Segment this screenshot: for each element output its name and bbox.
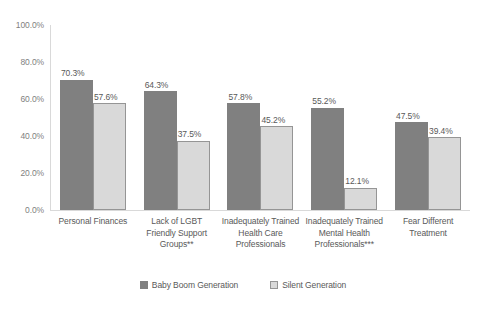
- bar-group: 64.3%37.5%: [135, 25, 219, 210]
- y-axis-tick-label: 60.0%: [0, 95, 44, 104]
- bar-groups: 70.3%57.6%64.3%37.5%57.8%45.2%55.2%12.1%…: [51, 25, 470, 210]
- bar-value-label: 47.5%: [396, 112, 420, 121]
- bar-slot: 39.4%: [428, 25, 461, 210]
- bar[interactable]: [93, 103, 126, 210]
- bar-pair: 47.5%39.4%: [386, 25, 470, 210]
- x-axis-category-label: Inadequately Trained Health Care Profess…: [219, 216, 303, 251]
- bar[interactable]: [227, 103, 260, 210]
- bar-pair: 57.8%45.2%: [219, 25, 303, 210]
- legend-swatch-icon: [140, 281, 148, 289]
- bar-value-label: 45.2%: [261, 116, 285, 125]
- bar-pair: 64.3%37.5%: [135, 25, 219, 210]
- bar-slot: 64.3%: [144, 25, 177, 210]
- bar-group: 70.3%57.6%: [51, 25, 135, 210]
- bar-slot: 70.3%: [60, 25, 93, 210]
- bar-value-label: 70.3%: [61, 69, 85, 78]
- bar[interactable]: [344, 188, 377, 210]
- y-axis-tick-label: 80.0%: [0, 58, 44, 67]
- legend-label: Baby Boom Generation: [152, 281, 238, 290]
- bar-value-label: 57.8%: [228, 93, 252, 102]
- bar[interactable]: [177, 141, 210, 210]
- bar-value-label: 57.6%: [94, 93, 118, 102]
- x-axis-category-label: Personal Finances: [51, 216, 135, 251]
- y-axis-tick-label: 0.0%: [0, 206, 44, 215]
- bar-chart: 100.0%80.0%60.0%40.0%20.0%0.0% 70.3%57.6…: [0, 0, 486, 311]
- bar-pair: 55.2%12.1%: [302, 25, 386, 210]
- bar[interactable]: [428, 137, 461, 210]
- x-axis-category-labels: Personal FinancesLack of LGBT Friendly S…: [51, 216, 470, 251]
- bar-pair: 70.3%57.6%: [51, 25, 135, 210]
- bar[interactable]: [60, 80, 93, 210]
- bar-slot: 37.5%: [177, 25, 210, 210]
- bar-group: 47.5%39.4%: [386, 25, 470, 210]
- bar-slot: 57.8%: [227, 25, 260, 210]
- bar-slot: 47.5%: [395, 25, 428, 210]
- bar-value-label: 37.5%: [178, 130, 202, 139]
- legend-item[interactable]: Silent Generation: [270, 281, 346, 290]
- x-axis-line: [50, 210, 470, 211]
- legend-label: Silent Generation: [282, 281, 346, 290]
- bar[interactable]: [144, 91, 177, 210]
- bar[interactable]: [260, 126, 293, 210]
- chart-legend: Baby Boom GenerationSilent Generation: [0, 281, 486, 290]
- legend-item[interactable]: Baby Boom Generation: [140, 281, 238, 290]
- bar-value-label: 64.3%: [145, 81, 169, 90]
- bar-slot: 12.1%: [344, 25, 377, 210]
- bar-slot: 57.6%: [93, 25, 126, 210]
- bar-group: 55.2%12.1%: [302, 25, 386, 210]
- bar-slot: 45.2%: [260, 25, 293, 210]
- legend-swatch-icon: [270, 281, 278, 289]
- x-axis-category-label: Lack of LGBT Friendly Support Groups**: [135, 216, 219, 251]
- y-axis-tick-label: 20.0%: [0, 169, 44, 178]
- bar-group: 57.8%45.2%: [219, 25, 303, 210]
- bar-value-label: 55.2%: [312, 97, 336, 106]
- bar[interactable]: [395, 122, 428, 210]
- x-axis-category-label: Fear Different Treatment: [386, 216, 470, 251]
- bar-slot: 55.2%: [311, 25, 344, 210]
- bar[interactable]: [311, 108, 344, 210]
- bar-value-label: 39.4%: [429, 127, 453, 136]
- bar-value-label: 12.1%: [345, 177, 369, 186]
- y-axis-tick-label: 100.0%: [0, 21, 44, 30]
- y-axis-tick-label: 40.0%: [0, 132, 44, 141]
- x-axis-category-label: Inadequately Trained Mental Health Profe…: [302, 216, 386, 251]
